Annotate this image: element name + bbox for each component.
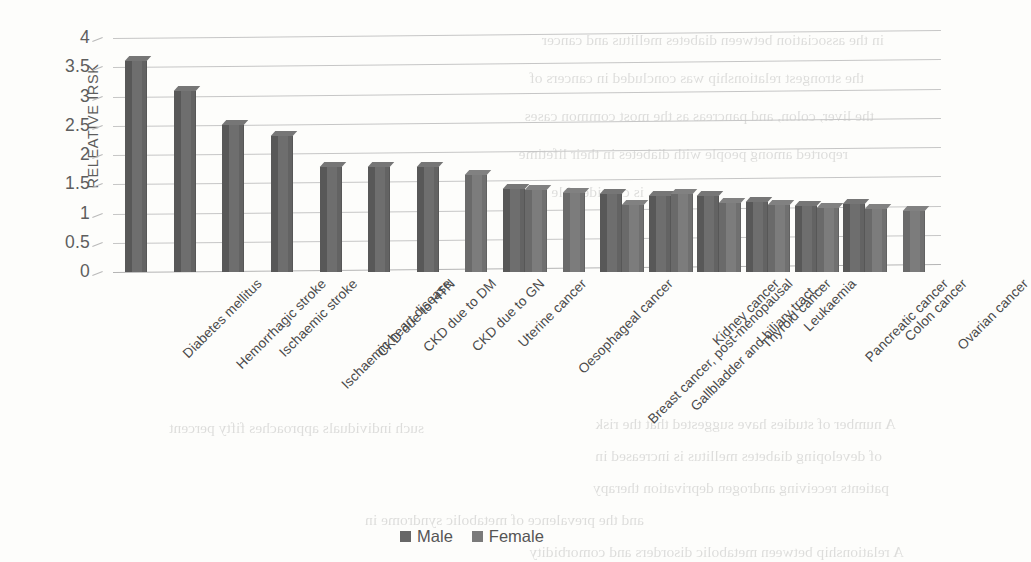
bar-body	[746, 202, 768, 272]
legend-label: Male	[417, 527, 453, 546]
y-axis-tick-label: 1.5	[2, 173, 90, 194]
bar-male[interactable]	[368, 167, 390, 272]
y-axis-tick-label: 2.5	[2, 115, 90, 136]
bar-female[interactable]	[465, 175, 487, 272]
legend-item-female[interactable]: Female	[472, 527, 544, 546]
y-axis-tick-label: 2	[2, 144, 90, 165]
bar-top-cap	[622, 200, 649, 205]
bar-top-cap	[902, 206, 929, 211]
bar-top-cap	[746, 197, 773, 202]
bar-group[interactable]	[210, 38, 259, 272]
bar-body	[865, 209, 887, 272]
bar-group[interactable]	[793, 38, 842, 272]
bar-female[interactable]	[525, 190, 547, 272]
bar-group[interactable]	[890, 38, 939, 272]
bar-group[interactable]	[453, 38, 502, 272]
bar-top-cap	[525, 185, 552, 190]
bar-group[interactable]	[502, 38, 551, 272]
y-axis-tick-mark	[92, 37, 103, 42]
bar-group[interactable]	[842, 38, 891, 272]
bar-group[interactable]	[647, 38, 696, 272]
bar-male[interactable]	[320, 167, 342, 272]
bar-female[interactable]	[768, 205, 790, 272]
bar-top-cap	[368, 162, 395, 167]
bar-group[interactable]	[550, 38, 599, 272]
bar-body	[795, 206, 817, 272]
bar-body	[174, 91, 196, 272]
y-axis-tick-mark	[92, 183, 103, 188]
bar-body	[768, 205, 790, 272]
bar-body	[525, 190, 547, 272]
bar-female[interactable]	[903, 211, 925, 272]
bar-group[interactable]	[259, 38, 308, 272]
bar-male[interactable]	[600, 194, 622, 272]
bar-male[interactable]	[697, 196, 719, 272]
x-axis-category-labels: Diabetes mellitusHemorrhagic strokeIscha…	[113, 276, 944, 411]
bar-group[interactable]	[307, 38, 356, 272]
plot-area	[113, 38, 939, 272]
bar-female[interactable]	[865, 209, 887, 272]
y-axis-tick-labels: 43.532.521.510.50	[0, 26, 104, 284]
bar-top-cap	[125, 56, 152, 61]
bar-top-cap	[271, 131, 298, 136]
bar-male[interactable]	[649, 196, 671, 272]
y-axis-tick-mark	[92, 95, 103, 100]
x-axis-category-label: Oesophageal cancer	[575, 276, 676, 377]
bar-male[interactable]	[222, 125, 244, 272]
bar-top-cap	[222, 120, 249, 125]
y-axis-tick-label: 0	[2, 261, 90, 282]
bar-top-cap	[719, 198, 746, 203]
y-axis-tick-mark	[92, 242, 103, 247]
bar-female[interactable]	[563, 193, 585, 272]
bar-group[interactable]	[113, 38, 162, 272]
bar-male[interactable]	[271, 136, 293, 272]
bar-body	[697, 196, 719, 272]
bar-male[interactable]	[174, 91, 196, 272]
bar-group[interactable]	[696, 38, 745, 272]
bar-group[interactable]	[162, 38, 211, 272]
bar-group[interactable]	[599, 38, 648, 272]
bar-body	[222, 125, 244, 272]
bar-group[interactable]	[405, 38, 454, 272]
bar-female[interactable]	[671, 194, 693, 272]
y-axis-tick-label: 0.5	[2, 232, 90, 253]
bar-series-container	[113, 38, 939, 272]
bar-group[interactable]	[356, 38, 405, 272]
bar-body	[719, 203, 741, 272]
bar-male[interactable]	[746, 202, 768, 272]
bar-top-cap	[768, 200, 795, 205]
bar-body	[417, 167, 439, 272]
y-axis-tick-mark	[92, 271, 103, 276]
bar-female[interactable]	[622, 205, 644, 272]
bar-body	[600, 194, 622, 272]
bar-male[interactable]	[125, 61, 147, 272]
bar-top-cap	[562, 188, 589, 193]
bar-male[interactable]	[503, 189, 525, 272]
bar-body	[125, 61, 147, 272]
y-axis-tick-label: 1	[2, 203, 90, 224]
bar-male[interactable]	[417, 167, 439, 272]
bar-body	[503, 189, 525, 272]
chart-legend: MaleFemale	[0, 527, 944, 546]
x-axis-category-label: Pancreatic cancer	[862, 276, 951, 365]
bar-body	[368, 167, 390, 272]
bar-body	[622, 205, 644, 272]
x-axis-category-label: Breast cancer, post-menopausal	[645, 276, 796, 427]
bar-male[interactable]	[843, 204, 865, 272]
bar-body	[320, 167, 342, 272]
bar-body	[903, 211, 925, 272]
bar-group[interactable]	[745, 38, 794, 272]
y-axis-tick-label: 3.5	[2, 56, 90, 77]
bar-top-cap	[174, 86, 201, 91]
bar-top-cap	[816, 203, 843, 208]
bar-female[interactable]	[817, 208, 839, 272]
bar-male[interactable]	[795, 206, 817, 272]
y-axis-tick-mark	[92, 154, 103, 159]
bar-body	[465, 175, 487, 272]
bar-female[interactable]	[719, 203, 741, 272]
bar-body	[563, 193, 585, 272]
legend-item-male[interactable]: Male	[400, 527, 453, 546]
bar-body	[271, 136, 293, 272]
bar-top-cap	[670, 189, 697, 194]
